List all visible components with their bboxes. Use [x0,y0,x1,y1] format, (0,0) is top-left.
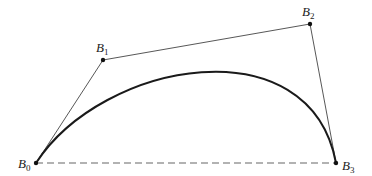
control-point-b3 [334,161,338,165]
label-b0: B0 [18,156,31,173]
control-point-b2 [308,22,312,26]
label-b2: B2 [302,4,314,21]
point-labels: B0 B1 B2 B3 [18,4,355,175]
control-point-b0 [34,161,38,165]
label-b3: B3 [342,158,355,175]
bezier-diagram: B0 B1 B2 B3 [0,0,372,176]
label-b1: B1 [96,40,108,57]
control-point-b1 [101,58,105,62]
bezier-curve [36,72,336,163]
control-polygon [36,24,336,163]
